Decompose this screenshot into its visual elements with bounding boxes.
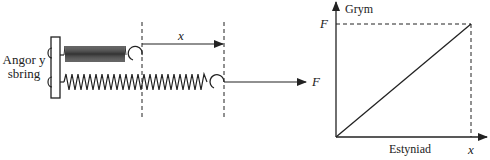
anchor-label-line2: sbring	[8, 66, 41, 81]
anchor-label-line1: Angor y	[3, 52, 46, 67]
x-tick-label: x	[467, 142, 474, 157]
spring-anchor	[48, 37, 60, 98]
force-extension-graph	[336, 2, 487, 137]
spring-force-extension-diagram: Angor y sbring x F Grym Estyniad F x	[0, 0, 490, 160]
y-axis-label: Grym	[345, 2, 374, 16]
extension-label: x	[177, 28, 184, 43]
proportional-line	[336, 24, 471, 137]
x-axis-label: Estyniad	[389, 142, 431, 156]
y-tick-label: F	[319, 16, 329, 31]
unstretched-spring	[60, 46, 142, 62]
force-label: F	[311, 74, 321, 89]
